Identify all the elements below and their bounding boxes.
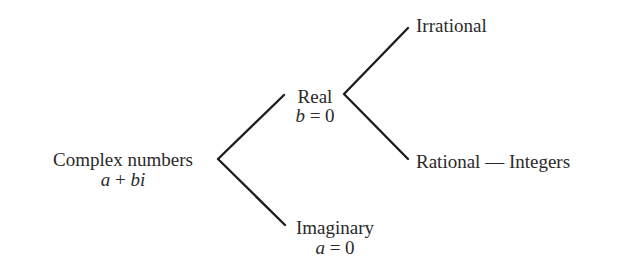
- real-formula: b = 0: [295, 105, 334, 126]
- edge-real-irrational-rational: [344, 28, 408, 159]
- edge-complex-real-imaginary: [218, 95, 285, 225]
- imaginary-label: Imaginary: [296, 217, 375, 238]
- imaginary-formula: a = 0: [315, 237, 354, 258]
- node-imaginary: Imaginary a = 0: [296, 217, 375, 258]
- node-rational-integers: Rational — Integers: [416, 151, 570, 172]
- real-label: Real: [298, 86, 333, 107]
- complex-numbers-label: Complex numbers: [53, 149, 193, 170]
- node-irrational: Irrational: [416, 15, 487, 36]
- node-complex-numbers: Complex numbers a + bi: [53, 149, 193, 190]
- complex-numbers-formula: a + bi: [101, 169, 146, 190]
- number-classification-tree: Complex numbers a + bi Real b = 0 Imagin…: [0, 0, 629, 269]
- node-real: Real b = 0: [295, 86, 334, 126]
